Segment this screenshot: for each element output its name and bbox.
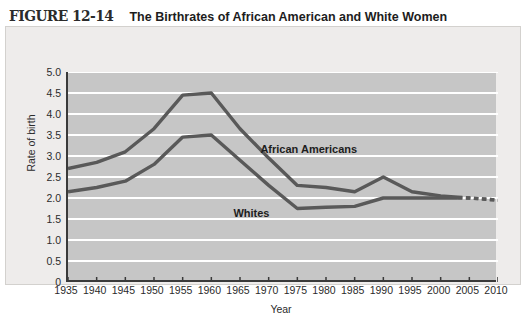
y-tick-label: 0.5 [29,256,61,266]
figure-number: FIGURE 12-14 [9,9,113,24]
y-tick-label: 3.5 [29,130,61,140]
x-tick-label: 2010 [476,285,516,296]
y-tick-label: 1.5 [29,214,61,224]
figure-container: FIGURE 12-14 The Birthrates of African A… [0,0,526,318]
figure-title-bar: FIGURE 12-14 The Birthrates of African A… [0,0,526,24]
y-tick-label: 2.5 [29,172,61,182]
chart-panel: Rate of birth 00.51.01.52.02.53.03.54.04… [5,26,521,285]
chart-svg [68,72,498,282]
y-tick-label: 4.5 [29,88,61,98]
page-title: The Birthrates of African American and W… [129,10,447,24]
series-annotation-african-americans: African Americans [260,143,357,155]
series-annotation-whites: Whites [233,207,269,219]
x-axis-label: Year [66,303,496,315]
y-axis-ticks: 00.51.01.52.02.53.03.54.04.55.0 [27,72,61,282]
plot-area: African AmericansWhites [66,72,496,282]
y-tick-label: 4.0 [29,109,61,119]
y-tick-label: 1.0 [29,235,61,245]
x-axis-ticks: 1935194019451950195519601965197019751980… [66,285,496,299]
y-tick-label: 5.0 [29,67,61,77]
y-tick-label: 2.0 [29,193,61,203]
y-tick-label: 3.0 [29,151,61,161]
